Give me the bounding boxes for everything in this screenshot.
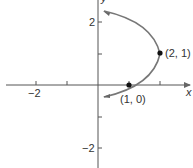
vertex-point	[157, 50, 162, 55]
ytick-label-neg2: −2	[82, 142, 95, 154]
parabola-curve	[104, 11, 160, 97]
y-axis-label: y	[100, 0, 108, 4]
intercept-label: (1, 0)	[120, 93, 146, 105]
ytick-label-2: 2	[89, 16, 95, 28]
y-axis	[98, 0, 102, 168]
parabola-graph: (2, 1) (1, 0) −2 2 −2 x y	[0, 0, 193, 168]
xtick-label-neg2: −2	[28, 87, 41, 99]
arrowhead-bottom-icon	[103, 94, 110, 98]
intercept-point	[126, 82, 131, 87]
x-axis-label: x	[185, 86, 192, 98]
vertex-label: (2, 1)	[165, 47, 191, 59]
